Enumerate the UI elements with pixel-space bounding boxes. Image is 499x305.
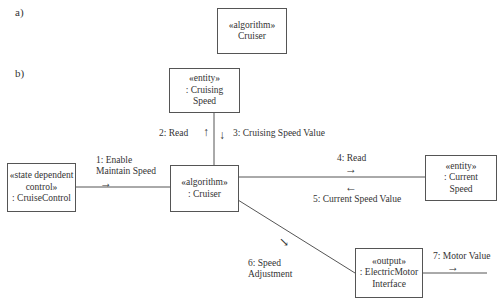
cruising-speed-name-line1: : Cruising <box>186 85 224 97</box>
cruise-control-stereotype-line2: control» <box>26 182 58 194</box>
current-speed-stereotype: «entity» <box>445 161 476 173</box>
arrow-right-icon: → <box>447 262 459 272</box>
electric-motor-stereotype: «output» <box>372 256 406 268</box>
part-a-label: a) <box>15 6 24 18</box>
cruising-speed-object: «entity» : Cruising Speed <box>169 68 240 113</box>
current-speed-name-line1: : Current <box>444 172 478 184</box>
message-6-line2: Adjustment <box>248 269 292 280</box>
arrow-down-icon: ↓ <box>219 130 225 140</box>
message-2: 2: Read <box>159 128 188 139</box>
cruise-control-stereotype-line1: «state dependent <box>10 170 74 182</box>
message-7: 7: Motor Value <box>433 251 490 262</box>
message-3: 3: Cruising Speed Value <box>233 128 325 139</box>
electric-motor-name-line1: : ElectricMotor <box>360 267 418 279</box>
message-5: 5: Current Speed Value <box>313 194 401 205</box>
cruise-control-object: «state dependent control» : CruiseContro… <box>7 163 76 212</box>
current-speed-name-line2: Speed <box>449 184 472 196</box>
cruiser-class-box: «algorithm» Cruiser <box>217 8 287 54</box>
cruise-control-name: : CruiseControl <box>12 193 71 205</box>
part-b-label: b) <box>15 67 24 79</box>
electric-motor-interface-object: «output» : ElectricMotor Interface <box>355 248 423 298</box>
cruiser-class-stereotype: «algorithm» <box>229 20 275 32</box>
arrow-diagonal-icon: ↘ <box>279 237 289 247</box>
cruiser-object-name: : Cruiser <box>188 189 221 201</box>
cruising-speed-name-line2: Speed <box>193 96 216 108</box>
arrow-left-icon: ← <box>345 182 357 192</box>
current-speed-object: «entity» : Current Speed <box>425 155 497 201</box>
cruiser-object-stereotype: «algorithm» <box>181 177 227 189</box>
electric-motor-name-line2: Interface <box>372 279 406 291</box>
cruiser-class-name: Cruiser <box>238 31 266 43</box>
arrow-right-icon: → <box>100 178 112 188</box>
cruiser-object: «algorithm» : Cruiser <box>170 165 239 212</box>
message-1-line1: 1: Enable <box>96 155 132 166</box>
arrow-right-icon: → <box>345 164 357 174</box>
arrow-up-icon: ↑ <box>203 127 209 137</box>
cruising-speed-stereotype: «entity» <box>189 73 220 85</box>
message-6-line1: 6: Speed <box>248 258 281 269</box>
